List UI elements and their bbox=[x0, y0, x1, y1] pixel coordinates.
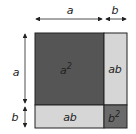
side-label-b: b bbox=[12, 111, 19, 124]
area-diagram: a b a b a2 ab ab b2 bbox=[0, 0, 136, 134]
top-label-a: a bbox=[67, 4, 74, 17]
side-label-a: a bbox=[13, 66, 20, 79]
top-label-b: b bbox=[112, 4, 119, 17]
label-ab-right: ab bbox=[108, 63, 122, 76]
label-ab-bottom: ab bbox=[63, 111, 77, 124]
